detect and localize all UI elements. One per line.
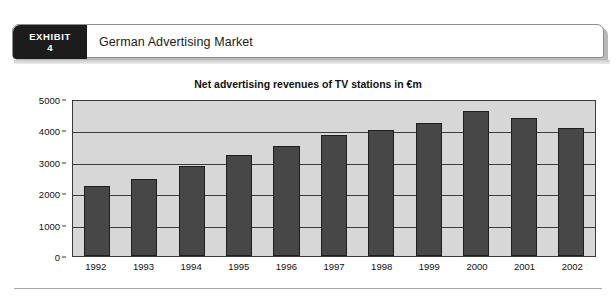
x-tick-label: 1997: [310, 261, 358, 272]
header-shadow-strip: [14, 60, 610, 64]
x-tick-label: 1999: [405, 261, 453, 272]
bar-2001: [511, 118, 537, 256]
bar-slot: [215, 101, 262, 256]
y-tick-mark: [62, 194, 66, 195]
bar-1992: [84, 186, 110, 256]
bar-1997: [321, 135, 347, 256]
bar-slot: [548, 101, 595, 256]
y-tick-label: 4000: [39, 126, 60, 137]
bar-1995: [226, 155, 252, 256]
bar-1994: [179, 166, 205, 256]
y-tick-label: 3000: [39, 157, 60, 168]
bar-1999: [416, 123, 442, 256]
x-tick-label: 1993: [120, 261, 168, 272]
bar-slot: [358, 101, 405, 256]
y-tick-mark: [62, 225, 66, 226]
x-axis: 1992199319941995199619971998199920002001…: [72, 261, 596, 272]
x-tick-label: 1994: [167, 261, 215, 272]
bar-slot: [500, 101, 547, 256]
y-tick-mark: [62, 100, 66, 101]
bar-slot: [405, 101, 452, 256]
y-axis: 010002000300040005000: [20, 100, 66, 257]
exhibit-title: German Advertising Market: [99, 25, 253, 59]
bar-1996: [273, 146, 299, 256]
y-tick-mark: [62, 162, 66, 163]
x-tick-label: 2000: [453, 261, 501, 272]
y-tick-mark: [62, 131, 66, 132]
footer-rule: [14, 288, 602, 289]
exhibit-tab: EXHIBIT 4: [13, 25, 87, 59]
header-body: EXHIBIT 4 German Advertising Market: [12, 24, 604, 58]
chart-title: Net advertising revenues of TV stations …: [0, 78, 616, 90]
exhibit-label: EXHIBIT: [29, 32, 71, 42]
exhibit-number: 4: [47, 43, 52, 53]
bar-slot: [168, 101, 215, 256]
x-tick-label: 1995: [215, 261, 263, 272]
bar-slot: [310, 101, 357, 256]
exhibit-header: EXHIBIT 4 German Advertising Market: [12, 24, 604, 58]
bar-2002: [558, 128, 584, 256]
y-tick-label: 1000: [39, 220, 60, 231]
bar-slot: [120, 101, 167, 256]
bar-slot: [263, 101, 310, 256]
bar-1993: [131, 179, 157, 256]
bar-1998: [368, 130, 394, 256]
x-tick-label: 1992: [72, 261, 120, 272]
x-tick-label: 1996: [263, 261, 311, 272]
plot-area: [72, 100, 596, 257]
y-tick-mark: [62, 257, 66, 258]
bar-series: [73, 101, 595, 256]
bar-2000: [463, 111, 489, 256]
x-tick-label: 2002: [548, 261, 596, 272]
x-tick-label: 1998: [358, 261, 406, 272]
bar-slot: [453, 101, 500, 256]
y-tick-label: 0: [55, 252, 60, 263]
chart-figure: Net advertising revenues of TV stations …: [0, 78, 616, 274]
y-tick-label: 5000: [39, 95, 60, 106]
y-tick-label: 2000: [39, 189, 60, 200]
x-tick-label: 2001: [501, 261, 549, 272]
bar-slot: [73, 101, 120, 256]
